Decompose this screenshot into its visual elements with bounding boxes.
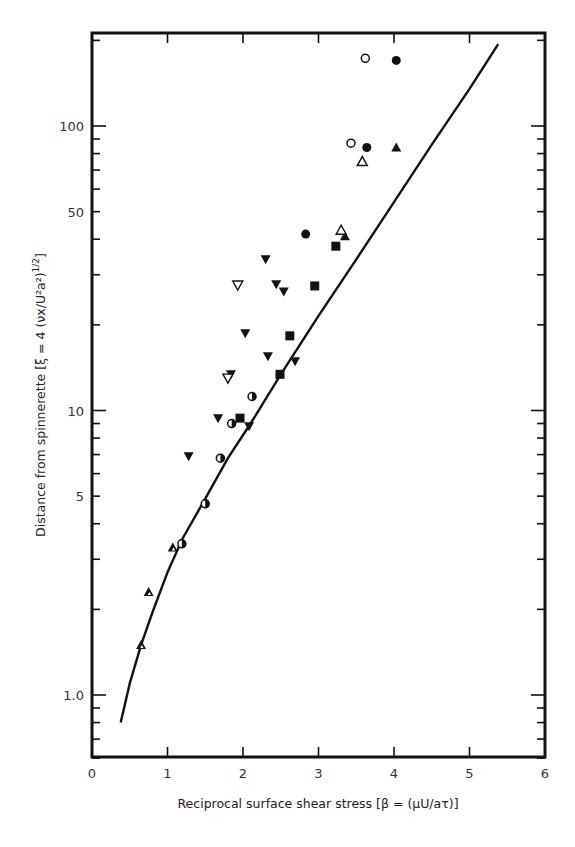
data-point-triangle-filled bbox=[391, 143, 401, 152]
data-point-circle-half bbox=[216, 454, 224, 462]
axis-ticks bbox=[92, 33, 545, 758]
data-point-triangle-open bbox=[336, 225, 346, 234]
data-point-circle-open bbox=[361, 54, 369, 62]
data-point-inverted-triangle-filled bbox=[290, 357, 300, 366]
data-point-inverted-triangle-open bbox=[233, 281, 243, 290]
data-point-circle-half bbox=[228, 420, 236, 428]
data-point-triangle-open bbox=[357, 157, 367, 166]
x-axis-title: Reciprocal surface shear stress [β = (μU… bbox=[177, 796, 458, 811]
data-point-circle-half bbox=[248, 392, 256, 400]
y-tick-label: 1.0 bbox=[63, 688, 84, 703]
data-point-square-filled bbox=[285, 331, 294, 340]
x-tick-label: 5 bbox=[465, 766, 473, 781]
data-point-inverted-triangle-filled bbox=[263, 352, 273, 361]
data-point-circle-filled bbox=[301, 230, 310, 239]
tick-labels: 01234561.051050100 bbox=[59, 119, 549, 781]
data-point-circle-open bbox=[347, 139, 355, 147]
x-tick-label: 2 bbox=[239, 766, 247, 781]
x-tick-label: 1 bbox=[163, 766, 171, 781]
data-point-triangle-half bbox=[168, 542, 178, 551]
y-tick-label: 10 bbox=[67, 404, 84, 419]
x-tick-label: 3 bbox=[314, 766, 322, 781]
data-point-circle-half bbox=[201, 500, 209, 508]
data-point-square-filled bbox=[310, 281, 319, 290]
chart: 01234561.051050100 Reciprocal surface sh… bbox=[0, 0, 575, 847]
plot-frame bbox=[92, 33, 545, 757]
data-point-circle-half bbox=[178, 540, 186, 548]
x-tick-label: 0 bbox=[88, 766, 96, 781]
data-point-circle-filled bbox=[362, 143, 371, 152]
data-points bbox=[136, 54, 401, 649]
data-point-triangle-half bbox=[144, 587, 154, 596]
data-point-inverted-triangle-filled bbox=[279, 287, 289, 296]
data-point-square-filled bbox=[235, 414, 244, 423]
data-point-triangle-half bbox=[136, 640, 146, 649]
data-point-inverted-triangle-filled bbox=[213, 414, 223, 423]
data-point-square-filled bbox=[331, 242, 340, 251]
theory-curve bbox=[121, 44, 499, 723]
y-tick-label: 100 bbox=[59, 119, 84, 134]
data-point-inverted-triangle-open bbox=[223, 374, 233, 383]
data-point-inverted-triangle-filled bbox=[184, 452, 194, 461]
data-point-inverted-triangle-filled bbox=[240, 329, 250, 338]
y-tick-label: 50 bbox=[67, 205, 84, 220]
data-point-inverted-triangle-filled bbox=[261, 255, 271, 264]
data-point-square-filled bbox=[275, 370, 284, 379]
y-axis-title: Distance from spinnerette [ξ = 4 (νx/U²a… bbox=[31, 253, 48, 537]
y-tick-label: 5 bbox=[76, 489, 84, 504]
x-tick-label: 4 bbox=[390, 766, 398, 781]
x-tick-label: 6 bbox=[541, 766, 549, 781]
data-point-circle-filled bbox=[392, 56, 401, 65]
